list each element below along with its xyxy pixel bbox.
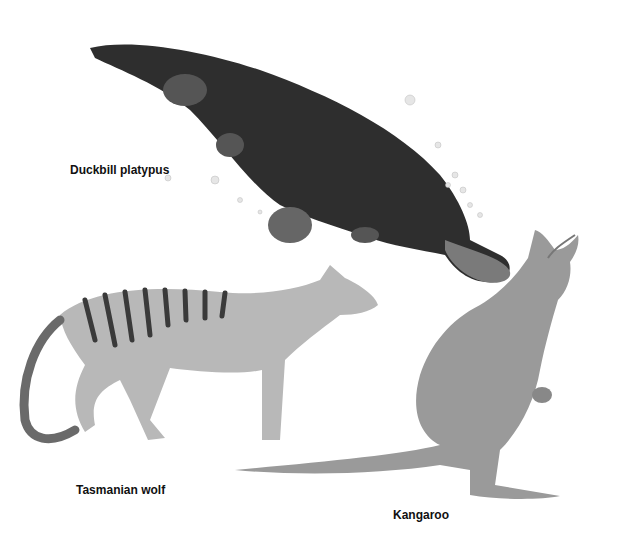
kangaroo-drawing xyxy=(235,230,578,499)
animal-illustrations xyxy=(0,0,618,539)
illustration: Duckbill platypus Tasmanian wolf Kangaro… xyxy=(0,0,618,539)
platypus-label: Duckbill platypus xyxy=(70,163,169,177)
tasmanian-wolf-drawing xyxy=(24,265,378,440)
tasmanian-wolf-label: Tasmanian wolf xyxy=(76,483,165,497)
kangaroo-label: Kangaroo xyxy=(393,508,449,522)
